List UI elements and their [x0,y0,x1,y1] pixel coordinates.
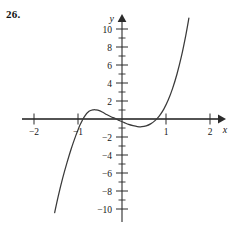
y-tick-label-4: 4 [107,79,112,89]
y-tick-label-8: 8 [107,43,112,53]
y-tick-label--6: −6 [102,169,112,179]
y-tick-label--10: −10 [97,205,112,215]
graph-figure: 26. [0,0,232,232]
y-tick-label--4: −4 [102,151,112,161]
y-tick-label-6: 6 [107,61,112,71]
x-axis-label: x [222,124,228,135]
x-tick-label-1: 1 [164,127,169,137]
y-tick-label--2: −2 [102,133,112,143]
x-tick-label-2: 2 [208,127,213,137]
y-axis-label: y [109,13,115,24]
y-tick-label-10: 10 [103,25,113,35]
x-axis-arrow-icon [218,115,226,124]
y-axis-arrow-icon [118,14,127,22]
coordinate-plot: −2 −1 1 2 10 8 6 4 2 −2 −4 −6 −8 −10 y x [0,0,232,232]
x-tick-label--1: −1 [73,127,83,137]
y-tick-label-2: 2 [107,97,112,107]
x-tick-label--2: −2 [29,127,39,137]
y-tick-label--8: −8 [102,187,112,197]
